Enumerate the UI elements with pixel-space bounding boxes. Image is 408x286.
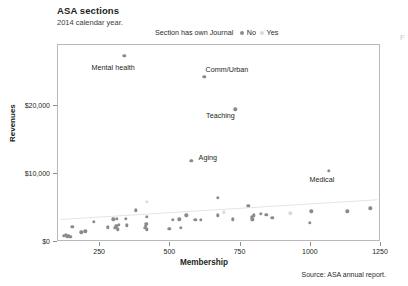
data-point-no[interactable]: [177, 218, 180, 221]
point-label: Medical: [309, 175, 334, 184]
legend-label-no: No: [247, 28, 256, 37]
page-subtitle: 2014 calendar year.: [57, 18, 123, 27]
trend-line: [60, 199, 377, 220]
x-axis-tick-label: 1000: [302, 248, 318, 255]
y-axis-label: Revenues: [8, 104, 17, 142]
data-point-no[interactable]: [145, 215, 148, 218]
x-axis-tick-mark: [99, 242, 100, 246]
data-point-yes[interactable]: [222, 211, 225, 214]
data-point-no[interactable]: [168, 227, 171, 230]
y-axis-tick-label: $10,000: [8, 170, 50, 177]
source-note: Source: ASA annual report.: [302, 271, 386, 278]
data-point-no[interactable]: [216, 196, 219, 199]
data-point-no[interactable]: [203, 75, 206, 78]
data-point-no[interactable]: [106, 226, 109, 229]
point-label: Aging: [199, 152, 217, 161]
data-point-no[interactable]: [125, 224, 128, 227]
x-axis-tick-mark: [240, 242, 241, 246]
data-point-no[interactable]: [145, 228, 148, 231]
data-point-no[interactable]: [134, 209, 137, 212]
data-point-no[interactable]: [123, 54, 126, 57]
data-point-yes[interactable]: [288, 211, 291, 214]
data-point-no[interactable]: [145, 222, 148, 225]
data-point-no[interactable]: [216, 213, 219, 216]
data-point-no[interactable]: [124, 217, 127, 220]
data-point-no[interactable]: [79, 230, 82, 233]
chart-legend: Section has own Journal No Yes: [155, 28, 278, 37]
data-point-no[interactable]: [193, 218, 196, 221]
legend-title: Section has own Journal: [155, 28, 233, 37]
point-label: Teaching: [206, 110, 235, 119]
data-point-no[interactable]: [369, 207, 372, 210]
data-point-no[interactable]: [116, 228, 119, 231]
x-axis-tick-mark: [380, 242, 381, 246]
data-point-no[interactable]: [190, 159, 193, 162]
data-point-no[interactable]: [345, 209, 348, 212]
legend-label-yes: Yes: [267, 28, 279, 37]
data-point-no[interactable]: [199, 218, 202, 221]
data-point-no[interactable]: [308, 221, 311, 224]
data-point-no[interactable]: [84, 230, 87, 233]
y-axis-tick-label: $0: [8, 238, 50, 245]
point-label: Mental health: [92, 63, 135, 72]
data-point-no[interactable]: [71, 225, 74, 228]
scatter-plot-area[interactable]: Mental healthComm/UrbanTeachingAgingMedi…: [57, 44, 380, 241]
data-point-no[interactable]: [184, 213, 187, 216]
data-point-no[interactable]: [117, 223, 120, 226]
y-axis-tick-mark: [53, 241, 57, 242]
x-axis-tick-label: 500: [164, 248, 176, 255]
x-axis-tick-label: 750: [234, 248, 246, 255]
data-point-yes[interactable]: [145, 200, 148, 203]
x-axis-tick-label: 250: [93, 248, 105, 255]
data-point-no[interactable]: [115, 217, 118, 220]
y-axis-tick-mark: [53, 173, 57, 174]
point-label: Comm/Urban: [206, 65, 249, 74]
data-point-no[interactable]: [68, 235, 71, 238]
edge-fragment-text: F: [400, 33, 405, 42]
x-axis-tick-label: 1250: [372, 248, 388, 255]
filled-dot-icon: [240, 31, 244, 35]
x-axis-label: Membership: [0, 258, 408, 267]
x-axis-tick-mark: [310, 242, 311, 246]
open-dot-icon: [260, 31, 264, 35]
data-point-no[interactable]: [251, 217, 254, 220]
chart-page: ASA sections 2014 calendar year. Section…: [0, 0, 408, 286]
data-point-no[interactable]: [309, 209, 312, 212]
data-point-no[interactable]: [92, 220, 95, 223]
legend-item-no[interactable]: No: [240, 28, 256, 37]
data-point-no[interactable]: [171, 218, 174, 221]
data-point-no[interactable]: [327, 169, 330, 172]
data-point-no[interactable]: [259, 212, 262, 215]
y-axis-tick-mark: [53, 105, 57, 106]
data-point-no[interactable]: [179, 226, 182, 229]
page-title: ASA sections: [57, 5, 119, 16]
data-point-no[interactable]: [231, 218, 234, 221]
data-point-no[interactable]: [265, 213, 268, 216]
legend-item-yes[interactable]: Yes: [260, 28, 278, 37]
data-point-no[interactable]: [270, 216, 273, 219]
x-axis-tick-mark: [169, 242, 170, 246]
